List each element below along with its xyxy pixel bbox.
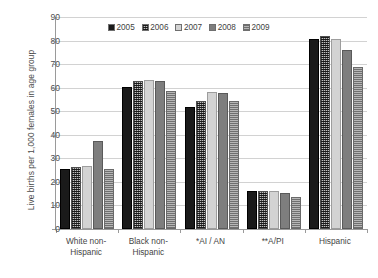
y-tick-label-30: 30 xyxy=(34,153,60,163)
legend-item[interactable]: 2007 xyxy=(175,23,202,32)
legend-item[interactable]: 2008 xyxy=(209,23,236,32)
x-axis-labels: White non-HispanicBlack non-Hispanic*AI … xyxy=(55,236,366,257)
bar[interactable] xyxy=(93,141,103,229)
y-tick-mark-70 xyxy=(52,64,55,65)
y-tick-label-80: 80 xyxy=(34,36,60,46)
bar-group-bars xyxy=(305,17,367,229)
bar[interactable] xyxy=(185,107,195,229)
y-tick-mark-80 xyxy=(52,41,55,42)
legend-label: 2007 xyxy=(184,23,202,32)
bar[interactable] xyxy=(71,167,81,229)
bar[interactable] xyxy=(133,81,143,229)
y-tick-mark-20 xyxy=(52,182,55,183)
bar[interactable] xyxy=(269,191,279,229)
x-axis-label: Black non-Hispanic xyxy=(117,236,179,257)
bar-chart: Live births per 1,000 females in age gro… xyxy=(0,0,378,278)
bar-group xyxy=(118,17,180,229)
x-axis-label: **A/PI xyxy=(242,236,304,257)
legend-swatch-2008 xyxy=(209,24,216,31)
bar[interactable] xyxy=(196,101,206,229)
legend-label: 2009 xyxy=(251,23,269,32)
x-tick-mark xyxy=(243,229,244,233)
legend-item[interactable]: 2009 xyxy=(243,23,270,32)
bar[interactable] xyxy=(331,39,341,229)
bar-group xyxy=(305,17,367,229)
bar[interactable] xyxy=(353,67,363,229)
bar-groups xyxy=(56,17,367,229)
bar-group-bars xyxy=(180,17,242,229)
y-tick-mark-90 xyxy=(52,17,55,18)
bar-group xyxy=(180,17,242,229)
bar[interactable] xyxy=(291,197,301,229)
legend-item[interactable]: 2005 xyxy=(108,23,135,32)
bar-group xyxy=(56,17,118,229)
y-tick-label-40: 40 xyxy=(34,130,60,140)
y-tick-mark-0 xyxy=(52,229,55,230)
bar-group-bars xyxy=(118,17,180,229)
plot-area xyxy=(55,17,367,230)
y-tick-label-0: 0 xyxy=(34,224,60,234)
bar[interactable] xyxy=(155,81,165,229)
bar[interactable] xyxy=(320,36,330,229)
legend-label: 2008 xyxy=(218,23,236,32)
bar[interactable] xyxy=(229,101,239,229)
bar[interactable] xyxy=(82,166,92,229)
y-tick-label-50: 50 xyxy=(34,106,60,116)
y-tick-label-20: 20 xyxy=(34,177,60,187)
y-tick-label-10: 10 xyxy=(34,200,60,210)
y-tick-label-90: 90 xyxy=(34,12,60,22)
legend-swatch-2005 xyxy=(108,24,115,31)
x-axis-label: *AI / AN xyxy=(179,236,241,257)
x-axis-label: White non-Hispanic xyxy=(55,236,117,257)
y-tick-label-70: 70 xyxy=(34,59,60,69)
bar-group xyxy=(243,17,305,229)
bar[interactable] xyxy=(60,169,70,229)
bar[interactable] xyxy=(218,93,228,229)
legend-label: 2005 xyxy=(117,23,135,32)
chart-legend: 20052006200720082009 xyxy=(108,23,270,32)
bar[interactable] xyxy=(166,91,176,229)
bar[interactable] xyxy=(247,191,257,229)
x-tick-mark xyxy=(118,229,119,233)
bar[interactable] xyxy=(309,39,319,229)
legend-swatch-2006 xyxy=(142,24,149,31)
bar-group-bars xyxy=(243,17,305,229)
y-tick-mark-50 xyxy=(52,111,55,112)
y-tick-label-60: 60 xyxy=(34,83,60,93)
y-tick-mark-30 xyxy=(52,158,55,159)
bar[interactable] xyxy=(342,50,352,229)
bar[interactable] xyxy=(258,191,268,229)
legend-label: 2006 xyxy=(150,23,168,32)
bar[interactable] xyxy=(104,169,114,229)
legend-item[interactable]: 2006 xyxy=(142,23,169,32)
bar[interactable] xyxy=(280,193,290,229)
bar[interactable] xyxy=(122,87,132,230)
x-tick-mark xyxy=(305,229,306,233)
x-tick-mark xyxy=(180,229,181,233)
bar[interactable] xyxy=(207,92,217,229)
y-tick-mark-40 xyxy=(52,135,55,136)
y-tick-mark-60 xyxy=(52,88,55,89)
y-tick-mark-10 xyxy=(52,205,55,206)
legend-swatch-2007 xyxy=(175,24,182,31)
bar[interactable] xyxy=(144,80,154,229)
x-axis-label: Hispanic xyxy=(304,236,366,257)
x-tick-mark xyxy=(367,229,368,233)
legend-swatch-2009 xyxy=(243,24,250,31)
bar-group-bars xyxy=(56,17,118,229)
